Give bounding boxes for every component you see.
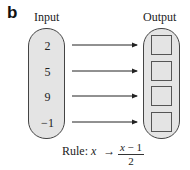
arrow-icon — [72, 45, 137, 122]
rule-text: Rule: x → — [62, 145, 115, 157]
rule-label: Rule: — [62, 144, 88, 158]
fraction-numerator: x − 1 — [118, 141, 144, 155]
rule-fraction: x − 1 2 — [118, 141, 144, 168]
rule-arrow-icon: → — [103, 144, 115, 158]
rule-variable: x — [91, 144, 96, 158]
fraction-denominator: 2 — [118, 155, 144, 168]
